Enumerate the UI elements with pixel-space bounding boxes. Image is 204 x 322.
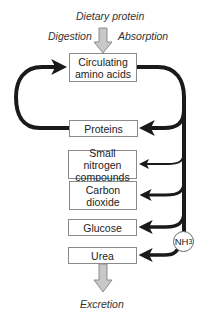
dietary-protein-label: Dietary protein	[76, 10, 144, 22]
box-line: amino acids	[75, 68, 131, 80]
digestion-label: Digestion	[48, 30, 92, 42]
small-nitrogen-compounds-box: Small nitrogen compounds	[68, 150, 137, 179]
ammonia-node: NH3	[173, 231, 194, 252]
urea-box: Urea	[68, 247, 137, 264]
box-line: Proteins	[84, 123, 123, 135]
box-line: dioxide	[86, 196, 119, 208]
arrow-to-glucose	[145, 212, 184, 227]
catabolism-arrow	[137, 67, 184, 232]
box-line: Glucose	[83, 222, 122, 234]
proteins-box: Proteins	[69, 120, 138, 137]
excretion-label: Excretion	[80, 298, 124, 310]
box-line: Carbon	[86, 184, 120, 196]
input-arrow	[94, 28, 112, 53]
box-line: Circulating	[78, 56, 128, 68]
box-line: Small nitrogen	[69, 147, 136, 171]
arrow-to-urea	[145, 249, 178, 255]
ammonia-base: NH	[175, 236, 189, 247]
arrow-to-small-nitrogen	[144, 152, 184, 164]
carbon-dioxide-box: Carbon dioxide	[69, 181, 137, 210]
glucose-box: Glucose	[68, 219, 137, 236]
circulating-amino-acids-box: Circulating amino acids	[69, 53, 137, 82]
arrow-to-proteins	[146, 110, 184, 128]
ammonia-subscript: 3	[188, 238, 192, 245]
excretion-arrow	[94, 264, 112, 292]
arrow-to-carbon-dioxide	[145, 182, 184, 195]
protein-recycle-arrow	[16, 67, 69, 128]
absorption-label: Absorption	[118, 30, 168, 42]
box-line: Urea	[91, 250, 114, 262]
